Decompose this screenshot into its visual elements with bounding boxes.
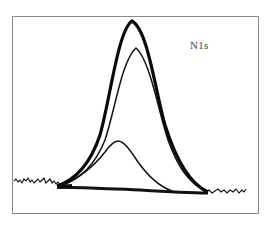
component-minor: [60, 141, 172, 191]
noise-right: [206, 189, 246, 193]
plot-frame: [13, 17, 259, 214]
xps-n1s-chart: [0, 0, 273, 228]
baseline-start-mark: [57, 186, 72, 187]
noise-left: [14, 178, 60, 185]
envelope-curve: [57, 21, 208, 192]
background-line: [57, 187, 208, 193]
peak-label-n1s: N1s: [190, 39, 209, 51]
